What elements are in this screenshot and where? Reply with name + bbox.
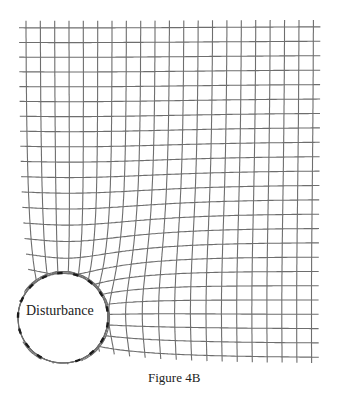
grid-line-vertical <box>312 20 314 363</box>
disturbance-boundary-dash <box>107 306 108 311</box>
grid-line-horizontal <box>20 114 320 117</box>
grid-line-vertical <box>297 20 299 363</box>
disturbance-boundary-dash <box>19 329 21 334</box>
figure-caption: Figure 4B <box>148 370 200 386</box>
disturbance-boundary-dash <box>73 274 78 276</box>
grid-line-vertical <box>267 20 270 362</box>
grid-line-horizontal <box>19 85 320 87</box>
grid-line-vertical <box>237 20 242 362</box>
grid-line-horizontal <box>21 157 320 162</box>
grid-line-horizontal <box>22 186 320 194</box>
grid-line-horizontal <box>26 243 319 258</box>
deformed-grid-diagram <box>0 0 339 404</box>
grid-line-horizontal <box>20 128 320 132</box>
grid-line-horizontal <box>23 214 319 225</box>
grid-line-vertical <box>252 20 256 362</box>
grid-line-horizontal <box>22 200 319 209</box>
grid-line-vertical <box>126 21 141 357</box>
grid-line-horizontal <box>20 142 319 147</box>
grid-line-horizontal <box>19 70 320 72</box>
grid-line-horizontal <box>20 99 321 102</box>
disturbance-label: Disturbance <box>26 303 94 319</box>
disturbance-boundary-dash <box>107 322 108 327</box>
grid-line-horizontal <box>21 171 319 178</box>
grid-line-vertical <box>282 20 285 363</box>
